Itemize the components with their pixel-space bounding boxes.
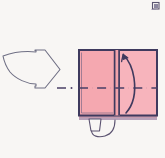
paper-right-panel-fill [119, 50, 157, 116]
origami-step-figure: A step in an origami instruction sequenc… [0, 0, 165, 158]
corner-mark-fill [154, 4, 158, 8]
origami-diagram-canvas [0, 0, 165, 158]
vertical-crease-group [114, 50, 120, 116]
axis-lead-dot [71, 87, 73, 89]
bottom-tab-shape [89, 119, 101, 131]
